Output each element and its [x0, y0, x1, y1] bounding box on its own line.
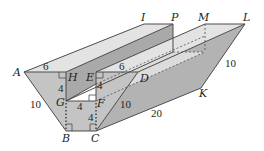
measure-LK: 10: [225, 57, 237, 69]
label-E: E: [85, 71, 94, 84]
label-P: P: [170, 11, 179, 24]
measure-HG: 4: [58, 82, 64, 94]
measure-CK: 20: [151, 107, 163, 119]
measure-CD: 10: [120, 98, 132, 110]
label-C: C: [91, 132, 100, 145]
trough-prism-diagram: A H E D G F B C I P M L K 6 6 4 4 4 4 10…: [0, 0, 264, 151]
label-H: H: [67, 71, 78, 84]
measure-ED: 6: [119, 60, 125, 72]
label-M: M: [197, 11, 210, 24]
label-G: G: [56, 96, 65, 109]
label-I: I: [140, 11, 146, 24]
measure-EF: 4: [97, 79, 103, 91]
label-F: F: [96, 97, 105, 110]
measure-AB: 10: [30, 98, 42, 110]
label-A: A: [12, 66, 21, 79]
measure-FC: 4: [88, 111, 94, 123]
label-B: B: [61, 132, 70, 145]
measure-GF: 4: [77, 100, 83, 112]
label-L: L: [242, 11, 250, 24]
label-D: D: [139, 72, 149, 85]
measure-AH: 6: [43, 60, 49, 72]
label-K: K: [198, 87, 208, 100]
